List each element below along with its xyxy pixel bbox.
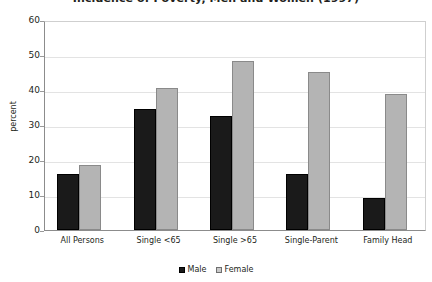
y-axis-tick-label: 40 [6, 86, 40, 95]
bar-group [363, 22, 407, 230]
x-axis-tick-label: Single-Parent [273, 236, 349, 246]
y-axis-tick-labels: 6050403020100 [0, 0, 40, 282]
bar-female[interactable] [79, 165, 101, 230]
bar-male[interactable] [286, 174, 308, 230]
bar-male[interactable] [57, 174, 79, 230]
y-axis-tick-mark [40, 21, 44, 22]
y-axis-tick-label: 50 [6, 51, 40, 60]
legend-label: Male [188, 265, 207, 274]
y-axis-tick-mark [40, 161, 44, 162]
x-axis-tick-label: All Persons [44, 236, 120, 246]
y-axis-tick-label: 20 [6, 156, 40, 165]
bar-male[interactable] [210, 116, 232, 230]
y-axis-tick-label: 0 [6, 226, 40, 235]
x-axis-tick-label: Single >65 [197, 236, 273, 246]
y-axis-tick-mark [40, 196, 44, 197]
bar-group [286, 22, 330, 230]
chart-legend: MaleFemale [0, 265, 432, 274]
chart-title: Incidence of Poverty, Men and Women (199… [0, 0, 432, 5]
x-axis-tick-label: Single <65 [120, 236, 196, 246]
x-axis-tick-labels: All PersonsSingle <65Single >65Single-Pa… [44, 236, 426, 252]
bar-group [57, 22, 101, 230]
bars-layer [45, 22, 425, 230]
bar-chart: Incidence of Poverty, Men and Women (199… [0, 0, 432, 282]
bar-female[interactable] [308, 72, 330, 230]
legend-swatch-icon [179, 267, 185, 273]
legend-item-male[interactable]: Male [179, 265, 207, 274]
x-axis-tick-label: Family Head [350, 236, 426, 246]
y-axis-tick-label: 10 [6, 191, 40, 200]
bar-male[interactable] [363, 198, 385, 230]
bar-female[interactable] [156, 88, 178, 230]
legend-label: Female [225, 265, 254, 274]
y-axis-tick-label: 30 [6, 121, 40, 130]
y-axis-tick-label: 60 [6, 16, 40, 25]
y-axis-tick-mark [40, 126, 44, 127]
bar-female[interactable] [385, 94, 407, 230]
bar-male[interactable] [134, 109, 156, 230]
plot-area [44, 21, 426, 231]
y-axis-tick-mark [40, 91, 44, 92]
legend-swatch-icon [216, 267, 222, 273]
legend-item-female[interactable]: Female [216, 265, 254, 274]
bar-female[interactable] [232, 61, 254, 230]
y-axis-tick-mark [40, 56, 44, 57]
y-axis-tick-mark [40, 231, 44, 232]
bar-group [134, 22, 178, 230]
bar-group [210, 22, 254, 230]
